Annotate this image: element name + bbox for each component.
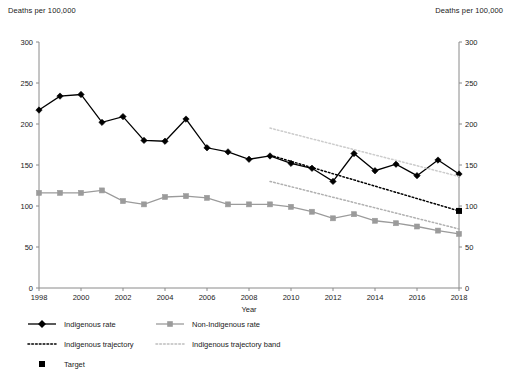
- data-series-group: [36, 91, 462, 236]
- data-point-marker: [163, 194, 168, 199]
- x-tick-label: 2010: [283, 293, 300, 302]
- target-marker-group: [456, 208, 462, 214]
- y-tick-label-right: 0: [465, 284, 469, 293]
- y-tick-label-right: 200: [465, 120, 478, 129]
- data-point-marker: [373, 218, 378, 223]
- x-tick-label: 2000: [73, 293, 90, 302]
- data-point-marker: [436, 228, 441, 233]
- chart-container: Deaths per 100,000 Deaths per 100,000 05…: [0, 0, 511, 381]
- legend-diamond-icon: [38, 320, 46, 328]
- x-tick-label: 2006: [199, 293, 216, 302]
- legend-label-1: Non-Indigenous rate: [192, 320, 260, 329]
- data-point-marker: [142, 202, 147, 207]
- data-point-marker: [58, 190, 63, 195]
- y-tick-label-left: 250: [20, 79, 33, 88]
- x-axis: 1998200020022004200620082010201220142016…: [31, 288, 468, 314]
- y-tick-label-right: 250: [465, 79, 478, 88]
- data-point-marker: [267, 153, 273, 159]
- data-point-marker: [268, 202, 273, 207]
- y-tick-label-left: 200: [20, 120, 33, 129]
- data-point-marker: [226, 202, 231, 207]
- x-tick-label: 2014: [367, 293, 384, 302]
- y-tick-label-right: 100: [465, 202, 478, 211]
- y-axis-right: 050100150200250300: [459, 38, 478, 293]
- data-point-marker: [37, 190, 42, 195]
- series-line-4: [270, 181, 459, 229]
- y-axis-left: 050100150200250300: [20, 38, 39, 293]
- y-tick-label-right: 150: [465, 161, 478, 170]
- legend-label-0: Indigenous rate: [64, 320, 116, 329]
- y-tick-label-left: 100: [20, 202, 33, 211]
- legend-target-square-icon: [39, 361, 45, 367]
- data-point-marker: [246, 156, 252, 162]
- x-tick-label: 2008: [241, 293, 258, 302]
- x-tick-label: 2002: [115, 293, 132, 302]
- data-point-marker: [184, 194, 189, 199]
- data-point-marker: [415, 224, 420, 229]
- line-chart: 050100150200250300 050100150200250300 19…: [0, 0, 511, 381]
- x-tick-label: 2016: [409, 293, 426, 302]
- data-point-marker: [205, 195, 210, 200]
- x-tick-label: 2018: [451, 293, 468, 302]
- data-point-marker: [331, 216, 336, 221]
- data-point-marker: [247, 202, 252, 207]
- legend-label-3: Indigenous trajectory band: [192, 340, 280, 349]
- y-tick-label-left: 50: [25, 243, 33, 252]
- series-line-3: [270, 128, 459, 176]
- x-tick-label: 2004: [157, 293, 174, 302]
- series-line-1: [39, 190, 459, 233]
- y-tick-label-right: 300: [465, 38, 478, 47]
- y-tick-label-left: 300: [20, 38, 33, 47]
- data-point-marker: [79, 190, 84, 195]
- data-point-marker: [310, 209, 315, 214]
- series-line-0: [39, 94, 459, 181]
- chart-legend: Indigenous rateNon-Indigenous rateIndige…: [28, 320, 280, 369]
- data-point-marker: [393, 161, 399, 167]
- data-point-marker: [121, 199, 126, 204]
- x-tick-label: 1998: [31, 293, 48, 302]
- data-point-marker: [100, 188, 105, 193]
- x-axis-title: Year: [241, 305, 257, 314]
- data-point-marker: [289, 204, 294, 209]
- y-tick-label-left: 150: [20, 161, 33, 170]
- legend-square-icon: [167, 321, 173, 327]
- x-tick-label: 2012: [325, 293, 342, 302]
- y-tick-label-right: 50: [465, 243, 473, 252]
- data-point-marker: [457, 231, 462, 236]
- data-point-marker: [352, 212, 357, 217]
- legend-label-2: Indigenous trajectory: [64, 340, 134, 349]
- target-marker: [456, 208, 462, 214]
- data-point-marker: [225, 149, 231, 155]
- legend-label-4: Target: [64, 360, 86, 369]
- series-line-2: [270, 155, 459, 211]
- data-point-marker: [394, 221, 399, 226]
- y-tick-label-left: 0: [29, 284, 33, 293]
